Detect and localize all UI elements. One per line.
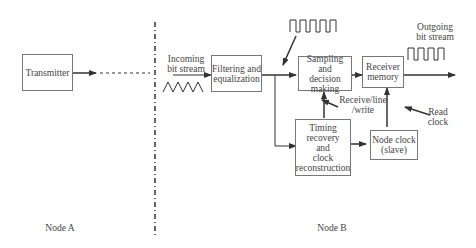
receive-line-write-label: Receive/line /write	[337, 95, 389, 115]
node-clock-label: Node clock (slave)	[372, 135, 416, 155]
transmitter-box: Transmitter	[22, 54, 73, 91]
filtering-box: Filtering and equalization	[211, 55, 262, 92]
node-a-label: Node A	[40, 223, 80, 233]
branch-to-timing-arrow	[275, 75, 296, 146]
sampling-label: Sampling and decision making	[299, 54, 351, 94]
pulse-train-icon	[290, 20, 336, 32]
read-clock-label: Read clock	[423, 107, 453, 127]
receiver-memory-box: Receiver memory	[362, 56, 404, 88]
transmitter-label: Transmitter	[26, 68, 70, 78]
receiver-memory-label: Receiver memory	[366, 62, 400, 82]
outgoing-bit-stream-label: Outgoing bit stream	[410, 22, 460, 42]
sampling-pulse-arrow	[283, 36, 296, 65]
analog-waveform-icon	[163, 82, 203, 92]
timing-label: Timing recovery and clock reconstruction	[296, 123, 350, 173]
sampling-box: Sampling and decision making	[298, 56, 352, 91]
outgoing-pulse-icon	[408, 48, 444, 60]
diagram-canvas	[0, 0, 476, 248]
node-clock-box: Node clock (slave)	[370, 130, 418, 160]
filtering-label: Filtering and equalization	[212, 64, 261, 84]
timing-box: Timing recovery and clock reconstruction	[295, 119, 351, 176]
incoming-bit-stream-label: Incoming bit stream	[163, 54, 209, 74]
node-b-label: Node B	[312, 223, 352, 233]
